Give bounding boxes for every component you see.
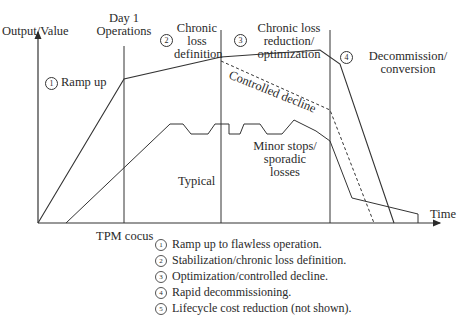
step-2-icon: 2 <box>160 34 173 47</box>
step-1-icon: 1 <box>45 77 58 90</box>
legend-item: 4Rapid decommissioning. <box>155 284 352 300</box>
legend-item: 2Stabilization/chronic loss definition. <box>155 252 352 268</box>
legend-item: 3Optimization/controlled decline. <box>155 268 352 284</box>
y-axis-label: Output/Value <box>2 25 69 38</box>
phase4-label: 4 Decommission/conversion <box>340 50 460 76</box>
typical-curve <box>66 120 418 223</box>
minor-stops-label: Minor stops/sporadiclosses <box>248 140 322 179</box>
legend: 1Ramp up to flawless operation. 2Stabili… <box>155 236 352 316</box>
typical-label: Typical <box>178 175 215 188</box>
controlled-decline-label: Controlled decline <box>227 68 319 116</box>
step-4-icon: 4 <box>155 287 167 299</box>
step-3-icon: 3 <box>234 34 247 47</box>
x-axis-label: Time <box>430 208 456 221</box>
step-4-icon: 4 <box>340 51 353 64</box>
step-3-icon: 3 <box>155 271 167 283</box>
step-5-icon: 5 <box>155 303 167 315</box>
phase3-label: 3 Chronic lossreduction/optimization <box>234 22 330 61</box>
day1-label: Day 1Operations <box>94 12 154 38</box>
step-2-icon: 2 <box>155 255 167 267</box>
ramp-up-label: 1Ramp up <box>45 76 106 90</box>
step-1-icon: 1 <box>155 239 167 251</box>
phase2-label: 2 Chroniclossdefinition <box>160 22 220 61</box>
tpm-label: TPM cocus <box>96 230 153 243</box>
legend-item: 1Ramp up to flawless operation. <box>155 236 352 252</box>
legend-item: 5Lifecycle cost reduction (not shown). <box>155 300 352 316</box>
